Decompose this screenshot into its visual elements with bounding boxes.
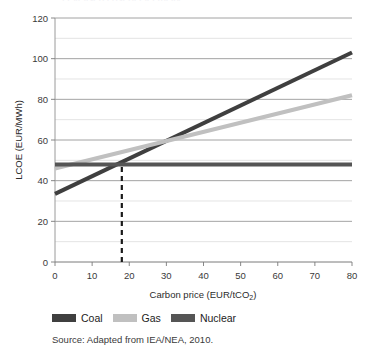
chart-figure: Levelised cost of electricity 0102030405… [0,0,366,353]
y-tick-label: 120 [32,13,48,24]
legend-item-gas[interactable]: Gas [113,313,161,324]
legend-label-nuclear: Nuclear [200,313,236,324]
x-axis-title: Carbon price (EUR/tCO2) [150,289,257,301]
x-tick-label: 30 [161,270,172,281]
y-tick-label: 80 [37,94,48,105]
x-tick-label: 20 [124,270,135,281]
x-tick-label: 40 [198,270,209,281]
legend-label-coal: Coal [81,313,103,324]
x-tick-label: 10 [87,270,98,281]
chart-series-lines [55,53,352,194]
legend-label-gas: Gas [142,313,161,324]
y-tick-label: 20 [37,216,48,227]
lcoe-carbon-price-chart: 01020304050607080 020406080100120 LCOE (… [0,0,366,353]
x-tick-label: 80 [347,270,358,281]
y-tick-label: 60 [37,135,48,146]
chart-y-tick-labels: 020406080100120 [32,13,48,268]
x-tick-label: 50 [235,270,246,281]
x-tick-label: 70 [310,270,321,281]
y-tick-label: 40 [37,175,48,186]
x-tick-label: 0 [52,270,57,281]
legend-swatch-coal [52,314,76,322]
legend-item-nuclear[interactable]: Nuclear [171,313,236,324]
legend-swatch-gas [113,314,137,322]
source-note: Source: Adapted from IEA/NEA, 2010. [52,334,213,345]
y-axis-title: LCOE (EUR/MWh) [13,100,24,180]
chart-x-tick-labels: 01020304050607080 [52,270,357,281]
chart-legend: Coal Gas Nuclear [52,313,236,324]
x-tick-label: 60 [272,270,283,281]
chart-x-ticks [51,18,352,266]
legend-item-coal[interactable]: Coal [52,313,103,324]
y-tick-label: 0 [43,257,48,268]
legend-swatch-nuclear [171,314,195,322]
y-tick-label: 100 [32,53,48,64]
